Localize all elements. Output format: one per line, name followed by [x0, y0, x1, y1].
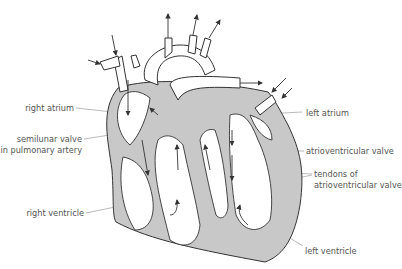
label-right-atrium: right atrium: [8, 103, 74, 113]
label-atrioventricular-valve: atrioventricular valve: [306, 146, 394, 156]
label-semilunar-valve-line1: semilunar valve: [0, 134, 82, 144]
label-semilunar-valve-line2: in pulmonary artery: [0, 145, 82, 155]
heart-outline: [107, 82, 302, 262]
label-tendons-line2: atrioventricular valve: [314, 180, 402, 190]
label-left-atrium: left atrium: [306, 108, 349, 118]
label-left-ventricle: left ventricle: [305, 246, 357, 256]
label-tendons-line1: tendons of: [314, 169, 358, 179]
label-right-ventricle: right ventricle: [0, 208, 84, 218]
